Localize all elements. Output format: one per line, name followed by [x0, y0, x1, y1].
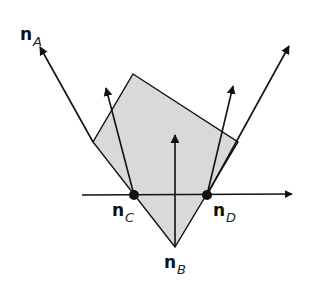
- normal-a-arrow: [40, 47, 93, 142]
- shaded-polygon: [93, 74, 238, 247]
- right-outer-arrow: [207, 46, 289, 195]
- horizontal-axis-arrow: [82, 194, 292, 195]
- point-d-dot: [202, 190, 212, 200]
- label-nb: nB: [164, 252, 186, 277]
- label-na: nA: [20, 24, 42, 49]
- label-nc: nC: [112, 200, 135, 225]
- normal-vectors-diagram: nA nC nD nB: [0, 0, 316, 292]
- point-c-dot: [129, 190, 139, 200]
- label-nd: nD: [213, 200, 236, 225]
